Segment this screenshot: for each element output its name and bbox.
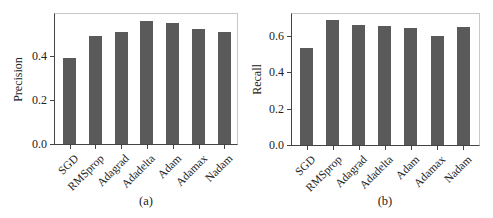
recall-chart-panel: Recall (b) 0.53SGD0.685RMSprop0.655Adagr… xyxy=(0,0,493,218)
y-tick-label: 0.0 xyxy=(258,139,284,151)
x-tick xyxy=(333,146,334,150)
x-tick xyxy=(463,146,464,150)
bar-adagrad: 0.655 xyxy=(352,25,365,145)
x-tick-label: Nadam xyxy=(442,153,474,185)
y-tick-label: 0.6 xyxy=(258,30,284,42)
x-tick xyxy=(307,146,308,150)
x-tick xyxy=(411,146,412,150)
y-tick xyxy=(287,109,291,110)
y-tick xyxy=(287,72,291,73)
x-tick xyxy=(385,146,386,150)
x-tick xyxy=(437,146,438,150)
y-tick-label: 0.2 xyxy=(258,103,284,115)
bar-adam: 0.64 xyxy=(404,28,417,145)
x-tick xyxy=(359,146,360,150)
bar-rmsprop: 0.685 xyxy=(326,20,339,145)
bar-nadam: 0.645 xyxy=(457,27,470,145)
y-tick xyxy=(287,145,291,146)
bar-adamax: 0.6 xyxy=(431,36,444,146)
bar-adadelta: 0.65 xyxy=(378,26,391,145)
bar-sgd: 0.53 xyxy=(300,48,313,145)
panel-caption: (b) xyxy=(365,194,405,209)
y-tick-label: 0.4 xyxy=(258,66,284,78)
y-tick xyxy=(287,36,291,37)
